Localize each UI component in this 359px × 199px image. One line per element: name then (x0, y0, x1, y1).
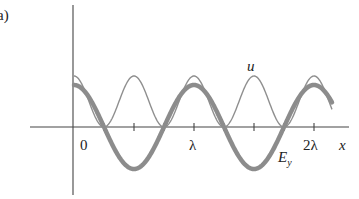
chart: a) 0 λ 2λ x u Ey (0, 0, 359, 199)
u-label: u (247, 58, 255, 74)
tick-label-lambda: λ (189, 137, 197, 153)
u-curve (74, 76, 332, 127)
x-axis-label: x (338, 137, 346, 153)
tick-label-0: 0 (80, 137, 88, 153)
tick-label-2lambda: 2λ (303, 137, 319, 153)
panel-label: a) (0, 7, 9, 24)
ey-label: Ey (277, 149, 292, 168)
